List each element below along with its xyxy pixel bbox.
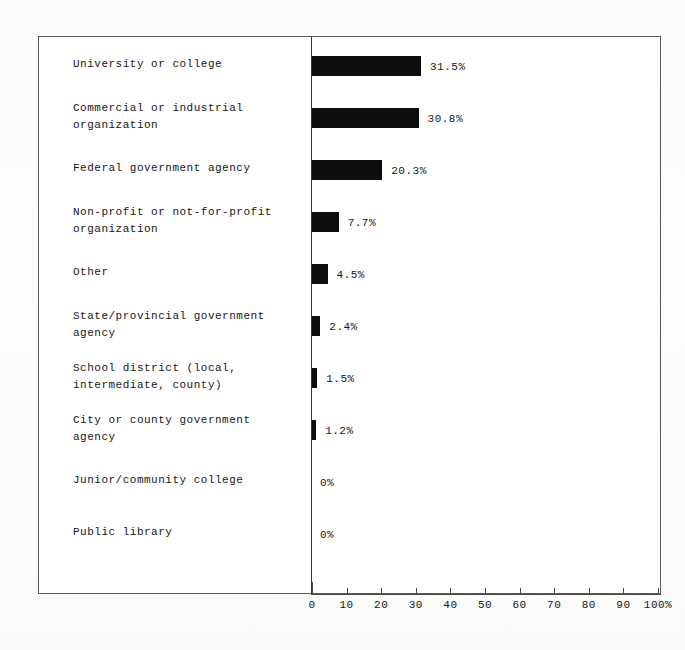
bar (312, 160, 382, 180)
category-label: Other (73, 264, 301, 281)
bar (312, 368, 317, 388)
category-label: Junior/community college (73, 472, 301, 489)
x-axis-tick (589, 588, 590, 594)
bar-row: State/provincial government agency2.4% (0, 302, 685, 354)
bar-row: City or county government agency1.2% (0, 406, 685, 458)
x-axis-tick-label: 50 (478, 598, 492, 612)
x-axis-tick (658, 588, 659, 594)
bar-row: University or college31.5% (0, 42, 685, 94)
x-axis-tick-label: 40 (443, 598, 457, 612)
x-axis-tick-label: 0 (308, 598, 315, 612)
bar (312, 108, 419, 128)
bar (312, 56, 421, 76)
x-axis-tick (520, 588, 521, 594)
bar-row: Commercial or industrial organization30.… (0, 94, 685, 146)
category-label: State/provincial government agency (73, 308, 301, 342)
bar (312, 212, 339, 232)
bar-rows-container: University or college31.5%Commercial or … (0, 0, 685, 594)
x-axis-tick-origin (312, 582, 313, 594)
bar-value-label: 20.3% (391, 164, 427, 178)
bar-row: Public library0% (0, 510, 685, 562)
x-axis-tick-label: 80 (582, 598, 596, 612)
x-axis-tick-label: 90 (616, 598, 630, 612)
bar-value-label: 0% (320, 528, 334, 542)
x-axis-tick (554, 588, 555, 594)
bar (312, 316, 320, 336)
x-axis-tick-label: 100% (644, 598, 672, 612)
x-axis-tick (623, 588, 624, 594)
bar-row: School district (local, intermediate, co… (0, 354, 685, 406)
category-label: Non-profit or not-for-profit organizatio… (73, 204, 301, 238)
category-label: City or county government agency (73, 412, 301, 446)
x-axis-tick (416, 588, 417, 594)
bar-value-label: 0% (320, 476, 334, 490)
bar-row: Other4.5% (0, 250, 685, 302)
x-axis-tick (347, 588, 348, 594)
bar (312, 264, 328, 284)
x-axis-tick (485, 588, 486, 594)
bar-value-label: 7.7% (348, 216, 376, 230)
x-axis-tick-label: 30 (409, 598, 423, 612)
bar-value-label: 1.2% (325, 424, 353, 438)
category-label: Commercial or industrial organization (73, 100, 301, 134)
x-axis-tick-label: 20 (374, 598, 388, 612)
bar-value-label: 2.4% (329, 320, 357, 334)
bar-value-label: 31.5% (430, 60, 466, 74)
category-label: Public library (73, 524, 301, 541)
x-axis-tick (381, 588, 382, 594)
bar-row: Junior/community college0% (0, 458, 685, 510)
bar-value-label: 4.5% (337, 268, 365, 282)
x-axis-tick-label: 60 (512, 598, 526, 612)
x-axis-line (311, 594, 661, 595)
x-axis-tick-label: 70 (547, 598, 561, 612)
bar-value-label: 1.5% (326, 372, 354, 386)
category-label: Federal government agency (73, 160, 301, 177)
x-axis-tick (450, 588, 451, 594)
category-label: University or college (73, 56, 301, 73)
bar-row: Federal government agency20.3% (0, 146, 685, 198)
category-label: School district (local, intermediate, co… (73, 360, 301, 394)
x-axis-tick-label: 10 (339, 598, 353, 612)
bar-value-label: 30.8% (428, 112, 464, 126)
bar (312, 420, 316, 440)
bar-row: Non-profit or not-for-profit organizatio… (0, 198, 685, 250)
